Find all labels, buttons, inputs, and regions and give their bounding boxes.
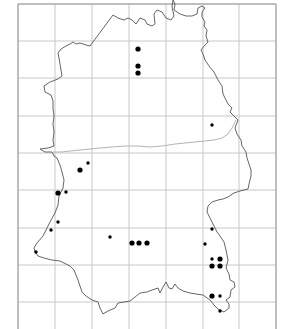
record-dot — [136, 240, 141, 245]
record-dot — [135, 46, 140, 51]
record-dot — [49, 228, 52, 231]
record-dot — [34, 250, 37, 253]
grid-lines — [18, 4, 276, 329]
record-dot — [129, 240, 134, 245]
record-dot — [64, 190, 67, 193]
record-dot — [217, 256, 222, 261]
record-dot — [210, 227, 213, 230]
record-dot — [135, 63, 140, 68]
record-dot — [86, 161, 89, 164]
record-dot — [210, 123, 213, 126]
record-dot — [218, 309, 221, 312]
internal-boundary-line — [53, 120, 236, 152]
record-dot — [209, 293, 214, 298]
record-dot — [217, 263, 222, 268]
record-dot — [209, 263, 214, 268]
record-dot — [135, 70, 140, 75]
record-dot — [218, 294, 221, 297]
distribution-map — [0, 0, 288, 329]
record-dot — [55, 190, 60, 195]
record-dot — [108, 235, 111, 238]
record-dot — [56, 220, 59, 223]
record-dot — [203, 242, 206, 245]
record-dots — [34, 46, 222, 312]
record-dot — [144, 240, 149, 245]
record-dot — [77, 167, 82, 172]
frame-border — [18, 4, 276, 329]
record-dot — [210, 257, 213, 260]
